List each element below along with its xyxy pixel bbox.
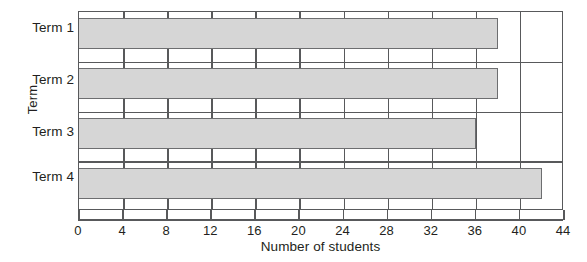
x-axis-tick [343, 210, 345, 220]
y-axis-tick-label: Term 2 [4, 72, 74, 87]
x-axis-tick [166, 210, 168, 220]
x-axis-tick-label: 24 [328, 223, 358, 238]
bar [79, 118, 476, 149]
x-axis-tick [298, 210, 300, 220]
x-axis-tick [387, 210, 389, 220]
bar [79, 18, 498, 49]
x-axis-tick-label: 16 [239, 223, 269, 238]
bar-chart: Term Term 1 Term 2 Term 3 Term 4 0481216… [0, 0, 587, 262]
row-separator [79, 112, 562, 114]
bar [79, 168, 542, 199]
x-axis-tick-label: 12 [195, 223, 225, 238]
x-axis-tick [519, 210, 521, 220]
bar [79, 68, 498, 99]
x-axis-tick-label: 32 [416, 223, 446, 238]
x-axis-tick-label: 28 [372, 223, 402, 238]
y-axis-tick-label: Term 4 [4, 169, 74, 184]
x-axis-line [78, 219, 563, 221]
x-axis-tick [563, 210, 565, 220]
x-axis-title: Number of students [78, 239, 563, 254]
x-axis-tick-label: 0 [63, 223, 93, 238]
x-axis-tick [78, 210, 80, 220]
y-axis-category-labels: Term 1 Term 2 Term 3 Term 4 [0, 0, 74, 220]
x-axis-tick-label: 20 [283, 223, 313, 238]
y-axis-tick-label: Term 1 [4, 20, 74, 35]
x-axis-tick-label: 40 [504, 223, 534, 238]
x-axis-tick-label: 4 [107, 223, 137, 238]
x-axis-tick [431, 210, 433, 220]
row-separator [79, 161, 562, 163]
x-axis-tick-label: 8 [151, 223, 181, 238]
x-axis-tick-label: 44 [548, 223, 578, 238]
x-axis-tick-label: 36 [460, 223, 490, 238]
plot-area [78, 11, 563, 210]
x-axis-tick [210, 210, 212, 220]
x-axis-tick [254, 210, 256, 220]
x-axis-tick [475, 210, 477, 220]
x-axis-tick [122, 210, 124, 220]
y-axis-tick-label: Term 3 [4, 124, 74, 139]
row-separator [79, 62, 562, 64]
